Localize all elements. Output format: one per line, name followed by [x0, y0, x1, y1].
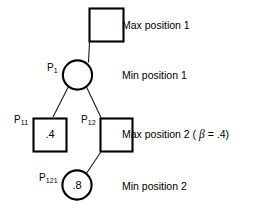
- node-p1-label-subscript: 1: [54, 67, 58, 74]
- caption-max-position-1: Max position 1: [122, 19, 190, 31]
- node-p12-label-base: P: [81, 114, 88, 125]
- node-p121-label-base: P: [39, 172, 46, 183]
- caption-min-position-1: Min position 1: [122, 69, 187, 81]
- edge-p1-to-p12: [87, 87, 102, 118]
- caption-max-position-2-prefix: Max position 2 (: [122, 128, 199, 140]
- caption-max-position-2: Max position 2 ( β = .4): [122, 128, 229, 140]
- node-root-square: [90, 9, 124, 42]
- tree-nodes: [34, 9, 133, 200]
- edge-p1-to-p11: [53, 87, 69, 118]
- node-p11-value: .4: [33, 128, 67, 140]
- caption-max-position-2-suffix: = .4): [205, 128, 229, 140]
- node-p12-label-subscript: 12: [88, 119, 96, 126]
- edge-root-to-p1: [89, 42, 90, 63]
- node-p11-label-base: P: [14, 114, 21, 125]
- diagram-canvas: .4 .8 P1 P11 P12 P121 Max position 1 Min…: [0, 0, 262, 214]
- node-p12-label: P12: [81, 114, 96, 125]
- node-p121-label-subscript: 121: [46, 177, 58, 184]
- node-p11-label: P11: [14, 114, 28, 125]
- node-p121-label: P121: [39, 172, 58, 183]
- node-p11-label-subscript: 11: [21, 119, 29, 126]
- node-p121-value: .8: [62, 179, 92, 191]
- caption-min-position-2: Min position 2: [122, 180, 187, 192]
- node-p1-label: P1: [47, 62, 58, 73]
- node-p1-circle: [63, 60, 92, 89]
- edge-p12-to-p121: [86, 153, 101, 175]
- node-p1-label-base: P: [47, 62, 54, 73]
